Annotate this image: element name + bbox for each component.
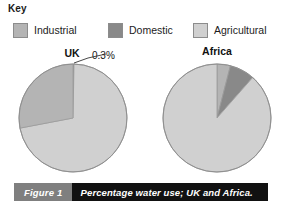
legend-swatch-industrial [13, 23, 28, 38]
key-title: Key [8, 3, 27, 14]
africa-chart-title: Africa [188, 45, 246, 57]
uk-pie-chart [14, 58, 132, 176]
figure-caption-bar: Figure 1 Percentage water use; UK and Af… [14, 183, 268, 201]
legend-label-agricultural: Agricultural [214, 25, 267, 36]
legend-item-agricultural: Agricultural [193, 19, 267, 41]
figure-caption-text: Percentage water use; UK and Africa. [72, 183, 253, 201]
figure-caption-tag: Figure 1 [14, 183, 72, 201]
legend-item-domestic: Domestic [108, 19, 173, 41]
legend-swatch-domestic [108, 23, 123, 38]
pie-slice-agricultural [163, 64, 271, 172]
legend: Industrial Domestic Agricultural [0, 19, 284, 41]
legend-swatch-agricultural [193, 23, 208, 38]
figure-container: Key Industrial Domestic Agricultural UK … [0, 0, 284, 208]
legend-label-industrial: Industrial [34, 25, 77, 36]
legend-item-industrial: Industrial [13, 19, 77, 41]
legend-label-domestic: Domestic [129, 25, 173, 36]
pie-slice-industrial [19, 64, 73, 128]
africa-pie-chart [158, 58, 276, 176]
